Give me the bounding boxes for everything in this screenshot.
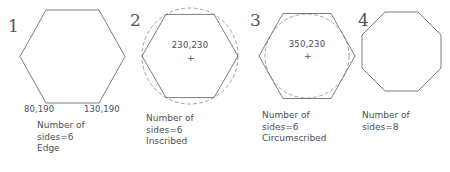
- octagon-polygon: [362, 12, 441, 91]
- caption-line-2: sides=6: [146, 125, 194, 137]
- hexagon-polygon: [20, 10, 125, 103]
- caption-line-1: Number of: [262, 110, 327, 122]
- caption-line-1: Number of: [146, 113, 194, 125]
- caption-line-1: Number of: [362, 110, 410, 122]
- hexagon-edge-shape: [0, 0, 135, 115]
- vertex-coordinate-label-left: 80,190: [24, 104, 54, 114]
- vertex-coordinate-label-right: 130,190: [84, 104, 120, 114]
- figure-4: 4 Number of sides=8: [358, 0, 450, 172]
- caption-line-3: Inscribed: [146, 136, 194, 148]
- octagon-shape: [358, 0, 450, 115]
- caption-line-2: sides=6: [262, 122, 327, 134]
- diagram-canvas: 1 80,190 130,190 Number of sides=6 Edge …: [0, 0, 450, 172]
- caption-line-3: Circumscribed: [262, 133, 327, 145]
- center-plus-icon: +: [187, 54, 195, 63]
- center-coordinate-label: 350,230: [279, 39, 335, 49]
- figure-caption-2: Number of sides=6 Inscribed: [146, 113, 194, 148]
- caption-line-3: Edge: [37, 143, 85, 155]
- caption-line-2: sides=6: [37, 132, 85, 144]
- figure-caption-1: Number of sides=6 Edge: [37, 120, 85, 155]
- caption-line-1: Number of: [37, 120, 85, 132]
- figure-1: 1 80,190 130,190 Number of sides=6 Edge: [0, 0, 135, 172]
- figure-caption-4: Number of sides=8: [362, 110, 410, 133]
- caption-line-2: sides=8: [362, 122, 410, 134]
- figure-2: 2 230,230 + Number of sides=6 Inscribed: [128, 0, 248, 172]
- figure-3: 3 350,230 + Number of sides=6 Circumscri…: [248, 0, 370, 172]
- center-coordinate-label: 230,230: [162, 40, 218, 50]
- center-plus-icon: +: [304, 52, 312, 61]
- figure-caption-3: Number of sides=6 Circumscribed: [262, 110, 327, 145]
